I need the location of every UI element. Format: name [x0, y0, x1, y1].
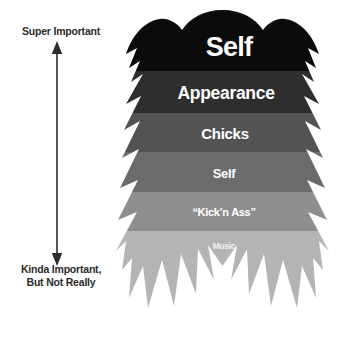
band-label-self-top: Self [206, 32, 254, 62]
importance-hierarchy-figure: Super Important Kinda Important, But Not… [0, 0, 349, 345]
double-headed-vertical-arrow-icon [44, 41, 70, 266]
band-label-music: Music [213, 241, 236, 251]
band-label-appearance: Appearance [177, 83, 275, 103]
band-label-self-middle: Self [213, 166, 237, 181]
hair-hierarchy-graphic: Self Appearance Chicks Self “Kick’n Ass”… [96, 8, 349, 345]
band-label-kickn-ass: “Kick’n Ass” [192, 206, 255, 218]
band-label-chicks: Chicks [201, 125, 248, 142]
